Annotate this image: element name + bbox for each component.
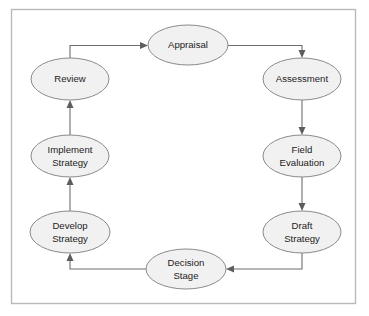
flowchart-canvas: Appraisal Assessment Field Evaluation Dr… <box>0 0 369 316</box>
node-decision-stage-label-line1: Decision <box>168 257 205 268</box>
edge-develop-strategy-to-implement-strategy <box>67 177 74 211</box>
node-review[interactable]: Review <box>31 58 109 100</box>
node-draft-strategy-label-line1: Draft <box>292 220 313 231</box>
node-implement-strategy[interactable]: Implement Strategy <box>31 135 109 177</box>
node-appraisal-label: Appraisal <box>168 39 208 50</box>
edge-review-to-appraisal <box>70 42 148 58</box>
node-assessment[interactable]: Assessment <box>263 58 341 100</box>
node-appraisal[interactable]: Appraisal <box>148 25 228 65</box>
node-field-evaluation-label-line2: Evaluation <box>280 157 325 168</box>
node-review-label: Review <box>54 73 86 84</box>
node-assessment-label: Assessment <box>276 73 329 84</box>
edge-draft-strategy-to-decision-stage <box>226 253 302 273</box>
node-develop-strategy-label-line1: Develop <box>52 220 87 231</box>
edge-appraisal-to-assessment <box>228 46 306 59</box>
edge-decision-stage-to-develop-strategy <box>67 253 147 269</box>
edge-assessment-to-field-evaluation <box>299 100 306 135</box>
node-decision-stage[interactable]: Decision Stage <box>146 249 226 289</box>
node-field-evaluation-label-line1: Field <box>292 144 313 155</box>
node-implement-strategy-label-line2: Strategy <box>52 157 88 168</box>
node-field-evaluation[interactable]: Field Evaluation <box>263 135 341 177</box>
node-draft-strategy-label-line2: Strategy <box>284 233 320 244</box>
node-develop-strategy[interactable]: Develop Strategy <box>30 211 110 253</box>
edge-implement-strategy-to-review <box>67 100 74 135</box>
node-decision-stage-label-line2: Stage <box>173 270 198 281</box>
flowchart-diagram: Appraisal Assessment Field Evaluation Dr… <box>0 0 369 316</box>
node-draft-strategy[interactable]: Draft Strategy <box>263 211 341 253</box>
edge-field-evaluation-to-draft-strategy <box>299 177 306 211</box>
node-implement-strategy-label-line1: Implement <box>48 144 93 155</box>
node-develop-strategy-label-line2: Strategy <box>52 233 88 244</box>
